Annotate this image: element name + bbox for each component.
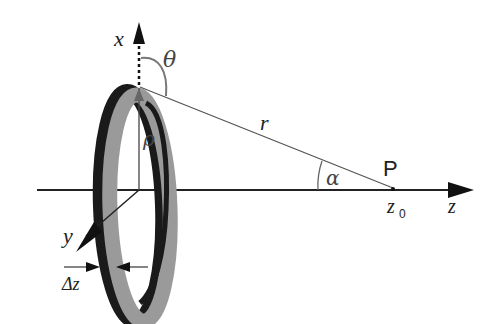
z0-label: z [386, 195, 395, 217]
rho-label: ρ [142, 127, 155, 151]
x-axis-label: x [113, 26, 124, 51]
point-p-label: P [383, 156, 398, 181]
point-p-marker [391, 187, 395, 191]
z-axis-label: z [447, 195, 456, 217]
delta-z-label: Δz [61, 274, 80, 294]
r-line [140, 87, 393, 188]
y-axis-label: y [61, 223, 73, 248]
x-axis-arrowhead [133, 22, 145, 44]
delta-z-left-arrow [86, 262, 100, 272]
alpha-arc [318, 161, 322, 190]
r-label: r [260, 110, 269, 135]
ring [96, 90, 174, 322]
z0-subscript: 0 [399, 207, 406, 221]
ring-diagram: x θ ρ r α P z 0 z y Δz [0, 0, 489, 324]
alpha-label: α [326, 166, 340, 190]
theta-label: θ [163, 47, 176, 72]
